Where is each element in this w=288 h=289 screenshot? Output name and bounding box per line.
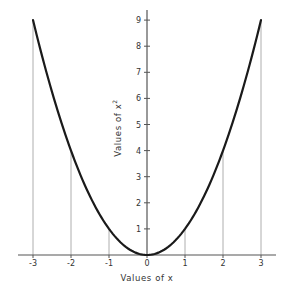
- y-tick-label: 6: [136, 94, 141, 103]
- y-axis-ticks: 123456789: [136, 16, 150, 234]
- y-tick-label: 9: [136, 16, 141, 25]
- y-tick-label: 2: [136, 199, 141, 208]
- y-tick-label: 1: [136, 225, 141, 234]
- y-tick-label: 7: [136, 68, 141, 77]
- y-tick-label: 3: [136, 173, 141, 182]
- x-tick-label: 3: [258, 259, 263, 268]
- x-tick-label: -2: [67, 259, 75, 268]
- y-axis-title: Values of x2: [111, 99, 123, 156]
- y-tick-label: 4: [136, 147, 141, 156]
- y-axis-title-superscript: 2: [111, 99, 118, 103]
- y-tick-label: 8: [136, 42, 141, 51]
- y-axis-title-base: Values of x: [113, 104, 123, 157]
- x-axis-title: Values of x: [121, 273, 174, 283]
- x-tick-label: -3: [29, 259, 37, 268]
- x-axis-ticks: -3-2-10123: [29, 255, 264, 268]
- x-tick-label: -1: [105, 259, 113, 268]
- x-tick-label: 1: [182, 259, 187, 268]
- x-tick-label: 2: [220, 259, 225, 268]
- y-tick-label: 5: [136, 121, 141, 130]
- axes: [18, 10, 276, 255]
- parabola-chart: -3-2-10123 123456789 Values of x Values …: [0, 0, 288, 289]
- x-tick-label: 0: [144, 259, 149, 268]
